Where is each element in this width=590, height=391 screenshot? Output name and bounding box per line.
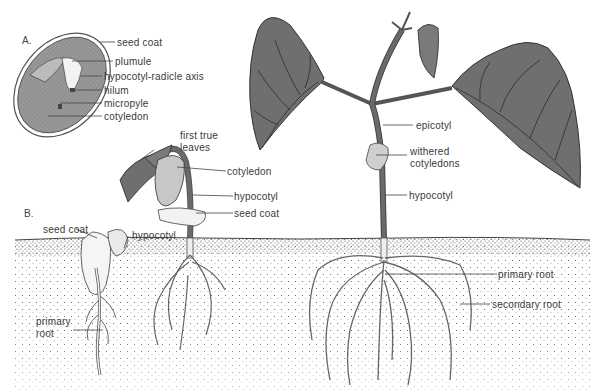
- label-cotyledon-s2: cotyledon: [227, 166, 272, 177]
- panel-label-a: A.: [22, 35, 31, 46]
- right-true-leaf: [452, 42, 580, 188]
- label-seed-coat-s2: seed coat: [234, 208, 279, 219]
- label-first-true-leaves-line1: first true: [180, 130, 218, 141]
- label-seed-coat-a: seed coat: [117, 37, 162, 48]
- label-secondary-root: secondary root: [492, 299, 561, 310]
- label-hypocotyl-s1: hypocotyl: [132, 230, 176, 241]
- label-withered-cotyledons-line1: withered: [410, 146, 449, 157]
- label-first-true-leaves-line2: leaves: [180, 142, 210, 153]
- germination-diagram: [0, 0, 590, 391]
- panel-label-b: B.: [24, 208, 33, 219]
- label-plumule: plumule: [115, 56, 151, 67]
- label-withered-cotyledons-line2: cotyledons: [410, 158, 460, 169]
- label-hilum: hilum: [104, 85, 129, 96]
- label-seed-coat-s1: seed coat: [43, 224, 88, 235]
- label-primary-root-s1-line2: root: [36, 328, 54, 339]
- label-hypocotyl-radicle-axis: hypocotyl-radicle axis: [104, 71, 204, 82]
- label-hypocotyl-s2: hypocotyl: [234, 191, 278, 202]
- label-primary-root-s1-line1: primary: [36, 316, 71, 327]
- label-epicotyl: epicotyl: [416, 120, 452, 131]
- label-hypocotyl-s3: hypocotyl: [409, 190, 453, 201]
- label-micropyle: micropyle: [104, 98, 149, 109]
- label-cotyledon-a: cotyledon: [104, 111, 149, 122]
- label-primary-root-s3: primary root: [498, 269, 554, 280]
- left-true-leaf: [250, 18, 324, 150]
